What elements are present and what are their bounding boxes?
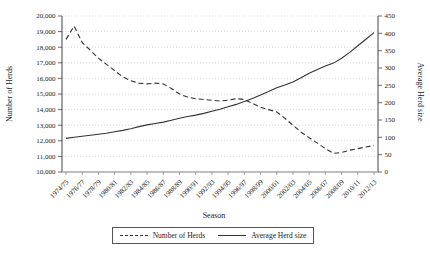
x-tick-label: 2012/13 — [357, 178, 379, 200]
y-left-tick-label: 13,000 — [36, 122, 56, 130]
y-right-tick-label: 150 — [385, 116, 396, 124]
y-left-tick-label: 17,000 — [36, 59, 56, 67]
y-left-tick-label: 20,000 — [36, 12, 56, 20]
y-right-tick-label: 250 — [385, 82, 396, 90]
y-left-axis-title: Number of Herds — [5, 66, 14, 122]
y-left-tick-label: 12,000 — [36, 137, 56, 145]
y-right-tick-label: 400 — [385, 30, 396, 38]
y-left-tick-label: 14,000 — [36, 106, 56, 114]
y-right-tick-label: 300 — [385, 64, 396, 72]
y-right-tick-label: 0 — [385, 168, 389, 176]
plot-line-average-herd-size — [66, 33, 374, 139]
y-right-axis-ticks: 050100150200250300350400450 — [378, 12, 396, 176]
x-axis-ticks: 1974/751976/771978/791980/811982/831984/… — [49, 172, 379, 200]
y-right-tick-label: 450 — [385, 12, 396, 20]
x-axis-title: Season — [203, 211, 226, 220]
legend-label-number-of-herds: Number of Herds — [153, 231, 206, 240]
y-right-tick-label: 200 — [385, 99, 396, 107]
y-left-tick-label: 11,000 — [37, 153, 56, 161]
y-left-tick-label: 15,000 — [36, 90, 56, 98]
plot-line-number-of-herds — [66, 26, 374, 153]
gridlines — [62, 16, 378, 156]
y-left-tick-label: 10,000 — [36, 168, 56, 176]
legend-item-average-herd-size: Average Herd size — [218, 231, 306, 240]
y-left-tick-label: 16,000 — [36, 75, 56, 83]
axes — [62, 16, 378, 172]
y-right-tick-label: 350 — [385, 47, 396, 55]
y-left-tick-label: 19,000 — [36, 28, 56, 36]
y-left-axis-ticks: 10,00011,00012,00013,00014,00015,00016,0… — [36, 12, 62, 176]
solid-line-icon — [218, 235, 246, 236]
herd-statistics-chart: 10,00011,00012,00013,00014,00015,00016,0… — [0, 0, 430, 259]
legend: Number of Herds Average Herd size — [112, 227, 314, 244]
dashed-line-icon — [120, 235, 148, 236]
chart-plot-area: 10,00011,00012,00013,00014,00015,00016,0… — [0, 0, 430, 259]
y-left-tick-label: 18,000 — [36, 44, 56, 52]
legend-item-number-of-herds: Number of Herds — [120, 231, 206, 240]
y-right-tick-label: 100 — [385, 134, 396, 142]
y-right-axis-title: Average Herd size — [416, 63, 425, 122]
y-right-tick-label: 50 — [385, 151, 393, 159]
legend-label-average-herd-size: Average Herd size — [251, 231, 306, 240]
